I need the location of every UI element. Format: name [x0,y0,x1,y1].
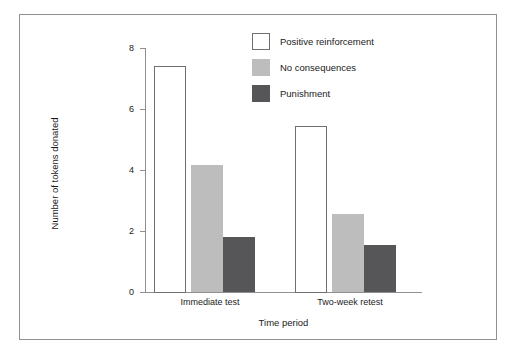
y-tick-label-6: 6 [108,105,134,114]
y-tick-mark-6 [140,109,145,110]
y-tick-label-0-wrap: 0 [108,288,134,297]
legend-item-punishment: Punishment [252,85,422,111]
bar-immediate-test-punishment [223,237,255,292]
y-tick-label-2: 2 [108,227,134,236]
bar-two-week-retest-punishment [364,245,396,292]
legend-label-no-consequences: No consequences [280,62,356,73]
y-tick-label-4: 4 [108,166,134,175]
x-axis-title: Time period [145,317,422,328]
plot-area: 8 6 4 2 0 Immediate test Two-week retest [0,0,512,355]
y-axis-title: Number of tokens donated [49,94,60,254]
y-tick-mark-8 [140,48,145,49]
x-category-label-immediate-test: Immediate test [140,297,280,308]
legend-swatch-punishment [252,85,270,102]
legend-item-positive-reinforcement: Positive reinforcement [252,33,422,59]
legend-label-punishment: Punishment [280,88,330,99]
bar-immediate-test-positive-reinforcement [154,66,186,293]
x-category-label-two-week-retest: Two-week retest [275,297,425,308]
legend-swatch-no-consequences [252,59,270,76]
bar-immediate-test-no-consequences [191,165,223,292]
y-tick-label-2-wrap: 2 [108,227,134,236]
figure-root: 8 6 4 2 0 Immediate test Two-week retest [0,0,512,355]
y-axis-line [145,48,146,293]
y-tick-label-4-wrap: 4 [108,166,134,175]
x-axis-line [145,292,422,293]
y-tick-label-8: 8 [108,44,134,53]
legend-label-positive-reinforcement: Positive reinforcement [280,36,374,47]
y-tick-label-0: 0 [108,288,134,297]
y-tick-label-6-wrap: 6 [108,105,134,114]
bar-two-week-retest-no-consequences [332,214,364,292]
bar-two-week-retest-positive-reinforcement [295,126,327,293]
y-tick-mark-0 [140,292,145,293]
y-tick-mark-2 [140,231,145,232]
legend-item-no-consequences: No consequences [252,59,422,85]
y-tick-label-8-wrap: 8 [108,44,134,53]
y-tick-mark-4 [140,170,145,171]
chart-legend: Positive reinforcement No consequences P… [252,33,422,111]
legend-swatch-positive-reinforcement [252,33,270,50]
